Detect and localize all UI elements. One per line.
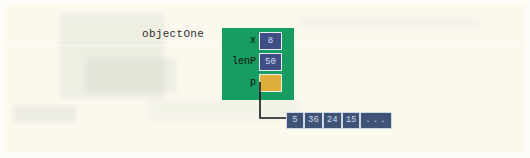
scan-artifact (60, 14, 164, 98)
field-value-p (259, 74, 282, 92)
diagram-canvas: objectOne x 8 lenP 50 p 5 36 24 15 ... (0, 0, 530, 158)
field-value-lenp: 50 (259, 53, 282, 71)
field-row: lenP 50 (222, 53, 282, 71)
scan-artifact (300, 18, 480, 28)
field-row: p (222, 74, 282, 92)
scan-artifact (86, 58, 176, 92)
object-label: objectOne (142, 28, 204, 40)
array-cell: 24 (323, 112, 342, 129)
field-value-x: 8 (259, 32, 282, 50)
array-cell: 15 (342, 112, 361, 129)
array-cell: 36 (304, 112, 323, 129)
field-label-p: p (222, 74, 259, 92)
heap-array: 5 36 24 15 ... (286, 112, 392, 129)
field-label-lenp: lenP (222, 53, 259, 71)
scan-artifact (150, 100, 300, 120)
scan-artifact (14, 106, 76, 122)
field-label-x: x (222, 32, 259, 50)
array-cell: 5 (286, 112, 304, 129)
array-cell-ellipsis: ... (360, 112, 392, 129)
field-row: x 8 (222, 32, 282, 50)
